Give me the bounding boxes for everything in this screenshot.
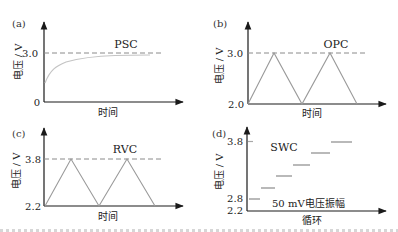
y-tick-mid: 2.8 — [227, 193, 243, 204]
panel-a-label: (a) — [12, 18, 26, 29]
y-axis-title: 电压 / V — [213, 47, 225, 85]
series-label: PSC — [114, 38, 137, 51]
panel-c-label: (c) — [12, 128, 26, 139]
panel-a: (a) 3.0 0 PSC 时间 电压 / V — [12, 18, 183, 118]
cropped-caption-line — [0, 229, 398, 232]
y-axis-title: 电压 / V — [10, 152, 22, 190]
y-tick-bottom: 2.2 — [25, 201, 41, 212]
y-tick-bottom: 2.0 — [228, 99, 244, 110]
x-axis-title: 时间 — [98, 106, 118, 118]
y-tick-top: 3.0 — [22, 48, 38, 59]
swc-staircase — [249, 142, 352, 199]
panel-c: (c) 3.8 2.2 RVC 时间 电压 / V — [10, 128, 183, 222]
series-label: SWC — [270, 141, 297, 154]
series-label: RVC — [113, 143, 137, 156]
x-axis-title: 循环 — [302, 214, 322, 226]
series-label: OPC — [324, 38, 349, 51]
y-axis-title: 电压 / V — [213, 153, 225, 191]
panel-d: (d) 3.8 2.8 2.2 SWC 50 mV电压振幅 循环 电压 / V — [212, 127, 386, 226]
y-tick-top: 3.8 — [227, 136, 243, 147]
panel-b: (b) 3.0 2.0 OPC 时间 电压 / V — [213, 18, 386, 119]
y-tick-top: 3.8 — [25, 154, 41, 165]
y-axis-title: 电压 / V — [12, 43, 24, 81]
opc-triangle-wave — [248, 53, 357, 104]
y-tick-bottom: 0 — [34, 97, 40, 108]
amplitude-annotation: 50 mV电压振幅 — [272, 197, 345, 209]
y-tick-top: 3.0 — [227, 48, 243, 59]
figure: (a) 3.0 0 PSC 时间 电压 / V (b) 3.0 2.0 OPC … — [0, 0, 398, 232]
psc-curve — [45, 55, 150, 83]
x-axis-title: 时间 — [302, 107, 322, 119]
x-axis-title: 时间 — [98, 210, 118, 222]
panel-b-label: (b) — [213, 18, 227, 29]
rvc-triangle-wave — [45, 159, 155, 206]
panel-d-label: (d) — [212, 128, 226, 139]
y-tick-bottom: 2.2 — [227, 205, 243, 216]
